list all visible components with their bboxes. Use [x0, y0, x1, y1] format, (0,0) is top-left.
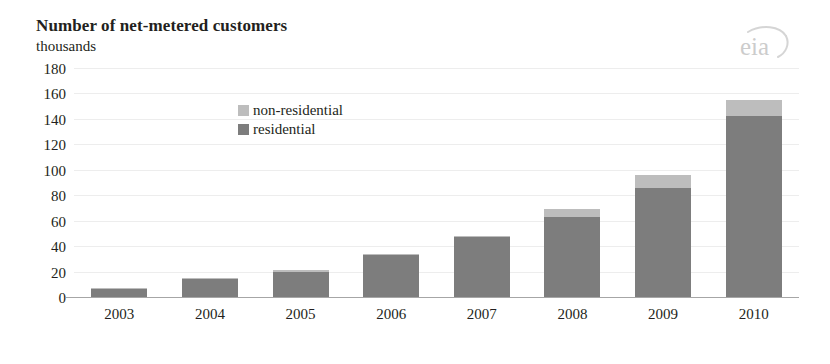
y-tick-label: 120 [22, 138, 66, 153]
x-tick-label-2005: 2005 [261, 306, 341, 323]
y-tick-label: 140 [22, 113, 66, 128]
y-tick-label: 60 [22, 215, 66, 230]
bar-segment-residential[interactable] [91, 289, 147, 297]
bar-group-2009[interactable] [635, 175, 691, 297]
x-axis-line [66, 297, 799, 298]
bar-segment-residential[interactable] [544, 217, 600, 297]
bar-segment-residential[interactable] [635, 188, 691, 297]
x-tick-label-2004: 2004 [170, 306, 250, 323]
y-tick-label: 0 [22, 291, 66, 306]
bar-segment-residential[interactable] [182, 279, 238, 297]
y-tick-label: 40 [22, 240, 66, 255]
chart-title: Number of net-metered customers [36, 16, 287, 36]
chart-subtitle: thousands [36, 38, 96, 55]
y-tick-label: 80 [22, 189, 66, 204]
bar-group-2004[interactable] [182, 278, 238, 297]
legend-swatch-icon [238, 105, 249, 116]
y-tick-label: 180 [22, 62, 66, 77]
bar-group-2008[interactable] [544, 209, 600, 297]
chart-container: Number of net-metered customers thousand… [0, 0, 830, 364]
y-tick-label: 100 [22, 164, 66, 179]
bar-segment-non-residential[interactable] [726, 100, 782, 117]
svg-text:eia: eia [740, 33, 769, 60]
bar-segment-residential[interactable] [273, 272, 329, 297]
legend-item-residential: residential [238, 120, 343, 139]
x-tick-label-2003: 2003 [79, 306, 159, 323]
bar-segment-non-residential[interactable] [544, 209, 600, 217]
legend-item-non-residential: non-residential [238, 101, 343, 120]
eia-logo-icon: eia [736, 22, 798, 62]
legend-swatch-icon [238, 124, 249, 135]
x-tick-label-2010: 2010 [714, 306, 794, 323]
bar-segment-residential[interactable] [363, 255, 419, 297]
bar-group-2005[interactable] [273, 270, 329, 297]
bar-segment-residential[interactable] [454, 237, 510, 297]
bar-group-2003[interactable] [91, 288, 147, 297]
x-tick-label-2009: 2009 [623, 306, 703, 323]
x-tick-label-2007: 2007 [442, 306, 522, 323]
x-tick-label-2008: 2008 [532, 306, 612, 323]
bar-group-2010[interactable] [726, 100, 782, 297]
y-tick-label: 160 [22, 87, 66, 102]
y-tick-label: 20 [22, 266, 66, 281]
plot-area [74, 68, 799, 297]
bars-layer [74, 68, 799, 297]
bar-segment-residential[interactable] [726, 116, 782, 297]
legend-label: non-residential [253, 103, 343, 118]
bar-segment-non-residential[interactable] [635, 175, 691, 188]
bar-group-2006[interactable] [363, 254, 419, 297]
bar-group-2007[interactable] [454, 236, 510, 297]
x-tick-label-2006: 2006 [351, 306, 431, 323]
chart-legend: non-residential residential [238, 101, 343, 139]
legend-label: residential [253, 122, 315, 137]
